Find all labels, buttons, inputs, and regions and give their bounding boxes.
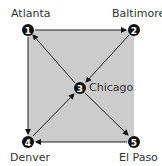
svg-text:2: 2 bbox=[131, 26, 137, 36]
node-2: 2 bbox=[128, 24, 140, 36]
label-chicago: Chicago bbox=[89, 82, 133, 93]
svg-text:5: 5 bbox=[131, 138, 137, 148]
label-baltimore: Baltimore bbox=[112, 8, 162, 19]
label-el-paso: El Paso bbox=[119, 152, 158, 163]
node-5: 5 bbox=[128, 136, 140, 148]
graph-diagram: 1 2 3 4 5 bbox=[0, 0, 162, 166]
label-denver: Denver bbox=[10, 152, 50, 163]
node-3: 3 bbox=[74, 82, 86, 94]
svg-text:3: 3 bbox=[77, 84, 83, 94]
svg-text:4: 4 bbox=[25, 138, 31, 148]
node-1: 1 bbox=[22, 24, 34, 36]
label-atlanta: Atlanta bbox=[11, 8, 50, 19]
svg-text:1: 1 bbox=[25, 26, 31, 36]
node-4: 4 bbox=[22, 136, 34, 148]
